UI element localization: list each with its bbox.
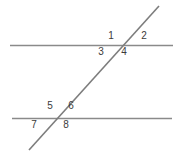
angle-label-3: 3 (96, 47, 106, 57)
angle-label-4: 4 (119, 47, 129, 57)
diagram-lines-layer (0, 0, 182, 153)
angle-label-7: 7 (29, 120, 39, 130)
angle-label-6: 6 (66, 101, 76, 111)
angle-label-5: 5 (45, 101, 55, 111)
transversal-line (29, 6, 159, 150)
angle-label-8: 8 (61, 120, 71, 130)
geometry-diagram: 1 2 3 4 5 6 7 8 (0, 0, 182, 153)
angle-label-1: 1 (106, 31, 116, 41)
angle-label-2: 2 (139, 31, 149, 41)
